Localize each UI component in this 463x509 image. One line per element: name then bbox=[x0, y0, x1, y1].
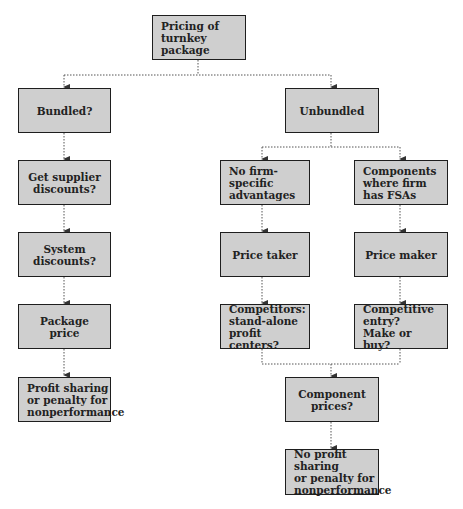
node-profit-sharing: Profit sharing or penalty for nonperform… bbox=[18, 377, 111, 422]
node-bundled: Bundled? bbox=[18, 88, 111, 133]
node-package-price: Package price bbox=[18, 304, 111, 349]
node-pricing-turnkey: Pricing of turnkey package bbox=[152, 15, 246, 60]
node-label: Profit sharing or penalty for nonperform… bbox=[27, 382, 125, 418]
flowchart-canvas: Pricing of turnkey package Bundled? Get … bbox=[0, 0, 463, 509]
node-price-taker: Price taker bbox=[220, 232, 310, 277]
node-unbundled: Unbundled bbox=[285, 88, 379, 133]
node-label: Get supplier discounts? bbox=[28, 171, 101, 195]
node-label: Competitors: stand-alone profit centers? bbox=[229, 303, 306, 351]
node-supplier-discounts: Get supplier discounts? bbox=[18, 160, 111, 205]
node-label: Competitive entry? Make or buy? bbox=[363, 303, 439, 351]
node-label: No firm- specific advantages bbox=[229, 165, 295, 201]
node-no-firm-specific: No firm- specific advantages bbox=[220, 160, 310, 205]
node-label: Component prices? bbox=[298, 388, 366, 412]
node-label: System discounts? bbox=[27, 243, 102, 267]
node-competitors: Competitors: stand-alone profit centers? bbox=[220, 304, 310, 349]
node-system-discounts: System discounts? bbox=[18, 232, 111, 277]
node-label: Package price bbox=[27, 315, 102, 339]
node-label: Pricing of turnkey package bbox=[161, 20, 237, 56]
node-label: Components where firm has FSAs bbox=[363, 165, 437, 201]
node-label: No profit sharing or penalty for nonperf… bbox=[294, 448, 392, 496]
node-price-maker: Price maker bbox=[354, 232, 448, 277]
node-components-fsas: Components where firm has FSAs bbox=[354, 160, 448, 205]
node-label: Unbundled bbox=[300, 105, 365, 117]
node-label: Price maker bbox=[365, 249, 437, 261]
node-label: Bundled? bbox=[37, 105, 93, 117]
node-component-prices: Component prices? bbox=[285, 377, 379, 422]
node-competitive-entry: Competitive entry? Make or buy? bbox=[354, 304, 448, 349]
node-label: Price taker bbox=[232, 249, 297, 261]
node-no-profit-sharing: No profit sharing or penalty for nonperf… bbox=[285, 449, 379, 495]
